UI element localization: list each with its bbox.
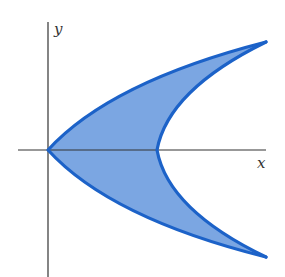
region-diagram: y x: [0, 0, 285, 277]
x-axis-label: x: [257, 154, 266, 172]
y-axis-label: y: [53, 20, 63, 38]
